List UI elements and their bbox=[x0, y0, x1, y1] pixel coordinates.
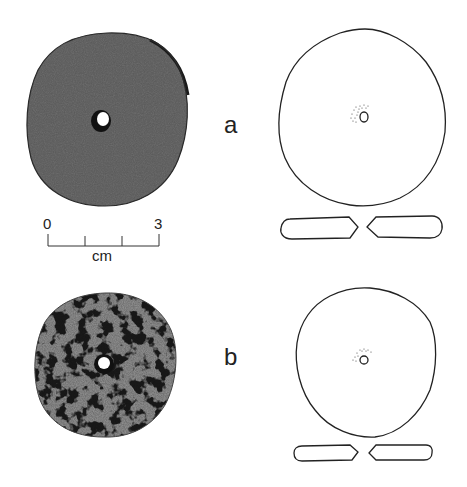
scale-unit-label: cm bbox=[92, 248, 112, 263]
drawing-disc-a bbox=[279, 29, 445, 206]
scale-start-label: 0 bbox=[43, 216, 51, 231]
scale-bar bbox=[48, 234, 159, 246]
scale-end-label: 3 bbox=[154, 216, 162, 231]
photo-disc-a bbox=[20, 25, 195, 215]
figure-canvas bbox=[0, 0, 467, 487]
drawing-disc-b bbox=[296, 288, 435, 437]
photo-disc-b bbox=[30, 285, 185, 445]
perforation-b bbox=[98, 357, 110, 369]
cross-section-b bbox=[294, 445, 432, 461]
drawing-perforation-b bbox=[360, 356, 368, 364]
drawing-perforation-a bbox=[360, 112, 368, 122]
object-label-a: a bbox=[224, 113, 237, 137]
cross-section-a bbox=[281, 216, 442, 239]
object-label-b: b bbox=[224, 345, 237, 369]
perforation-a bbox=[97, 112, 109, 126]
